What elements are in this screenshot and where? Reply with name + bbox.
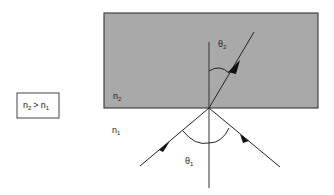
angle-arc-theta1	[183, 128, 229, 144]
theta1-label: θ1	[185, 156, 194, 167]
incident-ray	[140, 108, 209, 166]
n1-label: n1	[112, 125, 121, 136]
medium-2-block	[104, 13, 318, 108]
refraction-diagram: θ2 θ1 n2 n1 n2>n1	[0, 0, 334, 195]
reflected-arrowhead-icon	[240, 134, 249, 143]
incident-arrowhead-icon	[159, 141, 170, 152]
